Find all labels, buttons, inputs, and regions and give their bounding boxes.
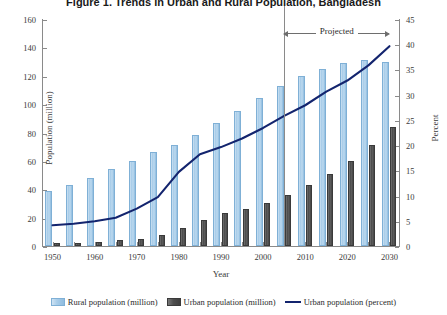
projected-label: Projected — [316, 26, 358, 36]
rural-bar-swatch — [51, 298, 65, 306]
x-axis-tick-label: 2010 — [297, 252, 314, 262]
y-axis-right-tick-label: 30 — [406, 92, 430, 101]
projected-divider-line — [284, 6, 285, 247]
percent-line-series — [42, 19, 400, 247]
y-axis-left-tick-label: 80 — [12, 130, 36, 139]
y-axis-left-title: Population (million) — [44, 48, 54, 208]
y-axis-right-tick-label: 5 — [406, 218, 430, 227]
legend-item-rural: Rural population (million) — [51, 297, 158, 307]
x-axis-tick-label: 2020 — [339, 252, 356, 262]
y-axis-right-tick — [395, 247, 399, 248]
x-axis-tick-label: 1960 — [86, 252, 103, 262]
y-axis-right-tick-label: 20 — [406, 142, 430, 151]
x-axis-tick-label: 1980 — [170, 252, 187, 262]
x-axis-tick-label: 1970 — [128, 252, 145, 262]
y-axis-left-tick-label: 0 — [12, 243, 36, 252]
y-axis-right-tick-label: 35 — [406, 66, 430, 75]
y-axis-left-tick-label: 40 — [12, 186, 36, 195]
y-axis-right-tick-label: 10 — [406, 193, 430, 202]
y-axis-right-title: Percent — [430, 48, 440, 208]
y-axis-left-tick — [43, 247, 47, 248]
chart-legend: Rural population (million) Urban populat… — [0, 297, 447, 307]
legend-label-percent: Urban population (percent) — [304, 297, 397, 307]
plot-area: 020406080100120140160 051015202530354045… — [42, 19, 400, 247]
y-axis-left-tick-label: 20 — [12, 215, 36, 224]
legend-label-urban: Urban population (million) — [184, 297, 276, 307]
percent-line-swatch — [285, 301, 301, 303]
y-axis-left-tick-label: 60 — [12, 158, 36, 167]
urban-bar-swatch — [167, 298, 181, 306]
y-axis-left-tick-label: 100 — [12, 101, 36, 110]
y-axis-left-tick-label: 140 — [12, 44, 36, 53]
x-axis-tick-label: 2000 — [255, 252, 272, 262]
y-axis-left-tick-label: 120 — [12, 73, 36, 82]
legend-label-rural: Rural population (million) — [68, 297, 158, 307]
y-axis-right-tick-label: 15 — [406, 167, 430, 176]
chart-figure: Figure 1. Trends in Urban and Rural Popu… — [0, 0, 447, 315]
chart-title: Figure 1. Trends in Urban and Rural Popu… — [0, 0, 447, 8]
x-axis-tick-label: 1990 — [213, 252, 230, 262]
legend-item-urban: Urban population (million) — [167, 297, 276, 307]
y-axis-right-tick-label: 25 — [406, 117, 430, 126]
legend-item-percent: Urban population (percent) — [285, 297, 397, 307]
y-axis-right-tick-label: 0 — [406, 243, 430, 252]
y-axis-right-tick-label: 40 — [406, 41, 430, 50]
x-axis-tick-label: 1950 — [44, 252, 61, 262]
x-axis-title: Year — [42, 269, 400, 279]
x-axis-tick-label: 2030 — [381, 252, 398, 262]
y-axis-right-tick-label: 45 — [406, 16, 430, 25]
y-axis-left-tick-label: 160 — [12, 16, 36, 25]
